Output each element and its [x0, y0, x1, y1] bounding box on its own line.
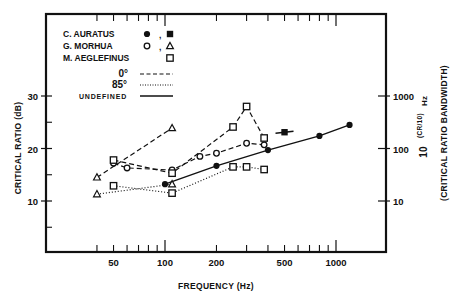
y2-axis-subtitle: (CRITICAL RATIO BANDWIDTH): [439, 65, 449, 201]
x-axis-title: FREQUENCY (Hz): [178, 281, 254, 291]
legend-species-label: G. MORHUA: [63, 41, 113, 51]
y2-axis-title: 10 (CR/10) Hz: [416, 96, 429, 158]
legend-species-label: M. AEGLEFINUS: [63, 53, 130, 63]
legend: C. AURATUS,G. MORHUA,M. AEGLEFINUS0°85°U…: [63, 29, 173, 100]
legend-line-style-label: 0°: [118, 68, 128, 79]
data-series: [94, 103, 353, 196]
series-c-auratus-undefined-square-: [276, 129, 294, 135]
x-tick-label: 200: [209, 257, 225, 268]
x-tick-label: 50: [108, 257, 119, 268]
x-tick-label: 100: [157, 257, 173, 268]
y-tick-label: 20: [27, 144, 38, 155]
legend-species-label: C. AURATUS: [63, 29, 115, 39]
svg-text:,: ,: [159, 42, 161, 52]
x-tick-label: 500: [277, 257, 293, 268]
series-c-auratus-undefined-: [162, 122, 353, 188]
y-tick-label: 10: [27, 196, 38, 207]
svg-text:10: 10: [418, 146, 429, 158]
svg-text:Hz: Hz: [420, 96, 429, 106]
y-tick-label: 30: [27, 91, 38, 102]
x-tick-label: 1000: [325, 257, 346, 268]
legend-line-style-label: 85°: [112, 79, 127, 90]
legend-line-style-label: UNDEFINED: [79, 93, 127, 100]
y-axis-title: CRITICAL RATIO (dB): [13, 102, 23, 195]
critical-ratio-chart: 501002005001000102030101001000 C. AURATU…: [0, 0, 456, 300]
series-m-aeglefinus-85-: [110, 164, 267, 197]
svg-text:(CR/10): (CR/10): [416, 113, 424, 138]
y2-tick-label: 10: [393, 196, 404, 207]
y2-tick-label: 100: [393, 144, 409, 155]
y2-tick-label: 1000: [393, 91, 414, 102]
svg-text:,: ,: [159, 30, 161, 40]
